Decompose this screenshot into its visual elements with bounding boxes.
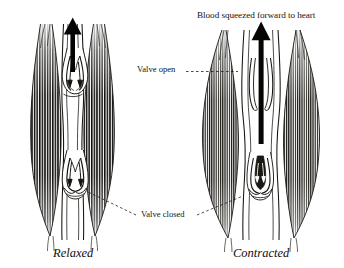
muscle-belly-right-inner (278, 26, 328, 246)
valve-closed-right (247, 152, 274, 200)
muscle-pump-illustration (0, 0, 344, 268)
muscle-belly-left-inner (80, 20, 125, 242)
valve-closed-left (62, 150, 88, 199)
caption-relaxed: Relaxed (53, 246, 93, 261)
panel-contracted (195, 22, 328, 253)
panel-relaxed (25, 18, 125, 252)
blood-flow-title: Blood squeezed forward to heart (197, 11, 315, 20)
diagram-canvas: Blood squeezed forward to heart Valve op… (0, 0, 344, 268)
label-valve-open: Valve open (137, 65, 175, 74)
caption-contracted: Contracted (233, 246, 289, 261)
blood-flow-arrow-right (252, 22, 271, 145)
label-valve-closed: Valve closed (141, 210, 185, 219)
